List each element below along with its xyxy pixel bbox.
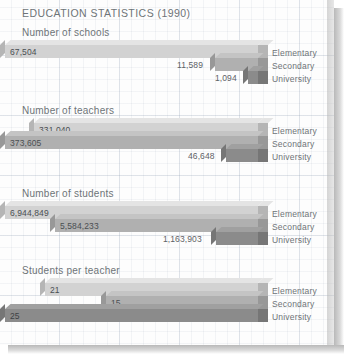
value-label-university: 46,648: [188, 151, 215, 161]
value-label-university: 25: [10, 311, 20, 321]
bar-front-face: [216, 232, 258, 245]
end-block-face-university: [258, 149, 268, 162]
end-block-face-university: [258, 309, 268, 322]
page-spine-shading: [327, 0, 334, 345]
bar-top-face: [226, 144, 264, 149]
bar-front-face: [248, 71, 258, 84]
end-block-face-university: [258, 232, 268, 245]
value-label-secondary: 373,605: [10, 138, 41, 148]
category-label-secondary: Secondary: [272, 139, 314, 149]
end-block-face-university: [258, 71, 268, 84]
bar-top-face: [215, 53, 264, 58]
category-label-elementary: Elementary: [272, 286, 317, 296]
category-label-secondary: Secondary: [272, 61, 314, 71]
bar-university: [248, 71, 258, 84]
page-title: EDUCATION STATISTICS (1990): [22, 7, 191, 19]
value-label-university: 1,163,903: [163, 234, 202, 244]
chart-title: Number of students: [22, 188, 114, 199]
bar-top-face: [5, 40, 264, 45]
category-label-university: University: [272, 152, 311, 162]
value-label-elementary: 21: [50, 285, 60, 295]
value-label-university: 1,094: [215, 73, 237, 83]
bar-front-face: [5, 309, 258, 322]
category-label-elementary: Elementary: [272, 48, 317, 58]
bar-top-face: [5, 201, 264, 206]
graph-paper-sheet: EDUCATION STATISTICS (1990) Number of sc…: [0, 0, 334, 345]
value-label-elementary: 67,504: [10, 47, 37, 57]
bar-top-face: [5, 131, 264, 136]
bar-university: [216, 232, 258, 245]
bar-front-face: [226, 149, 258, 162]
value-label-secondary: 5,584,233: [60, 221, 99, 231]
category-label-secondary: Secondary: [272, 299, 314, 309]
category-label-university: University: [272, 235, 311, 245]
chart-end-block: [258, 45, 268, 84]
bar-university: [226, 149, 258, 162]
bar-front-face: [5, 136, 258, 149]
value-label-secondary: 11,589: [177, 60, 203, 70]
chart-title: Students per teacher: [22, 265, 120, 276]
chart-end-block: [258, 206, 268, 245]
chart-end-block: [258, 283, 268, 322]
bar-top-face: [106, 291, 264, 296]
category-label-secondary: Secondary: [272, 222, 314, 232]
chart-title: Number of schools: [22, 27, 110, 38]
scanned-page: EDUCATION STATISTICS (1990) Number of sc…: [0, 0, 355, 363]
bar-top-face: [5, 304, 264, 309]
bar-top-face: [45, 278, 264, 283]
category-label-university: University: [272, 74, 311, 84]
category-label-elementary: Elementary: [272, 209, 317, 219]
bar-top-face: [216, 227, 264, 232]
bar-secondary: [5, 136, 258, 149]
chart-title: Number of teachers: [22, 105, 114, 116]
chart-end-block: [258, 123, 268, 162]
category-label-university: University: [272, 312, 311, 322]
page-shadow-right: [334, 8, 344, 353]
bar-top-face: [55, 214, 264, 219]
page-shadow-bottom: [8, 345, 344, 354]
bar-university: [5, 309, 258, 322]
value-label-elementary: 6,944,849: [10, 208, 49, 218]
category-label-elementary: Elementary: [272, 126, 317, 136]
bar-top-face: [34, 118, 264, 123]
